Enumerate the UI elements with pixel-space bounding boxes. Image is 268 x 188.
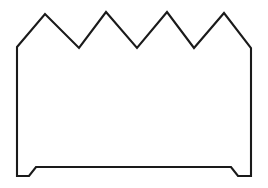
drawing-canvas: Zigzag-topped outline figure <box>0 0 268 188</box>
zigzag-crown-outline-path <box>17 12 251 176</box>
zigzag-outline-figure: Zigzag-topped outline figure <box>0 0 268 188</box>
